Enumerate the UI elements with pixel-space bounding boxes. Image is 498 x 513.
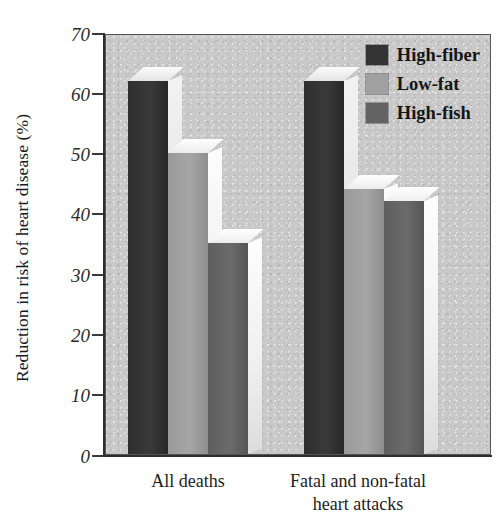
y-tick-mark-30 — [92, 274, 103, 276]
y-tick-label-0: 0 — [46, 447, 90, 466]
bar-front-face — [304, 81, 344, 454]
x-axis-label-heart-attacks: Fatal and non-fatal heart attacks — [258, 470, 458, 513]
y-tick-mark-20 — [92, 334, 103, 336]
y-axis-title: Reduction in risk of heart disease (%) — [12, 18, 42, 478]
y-tick-mark-70 — [92, 33, 103, 35]
bar-all-deaths-high-fish — [208, 243, 248, 454]
y-axis-tick-labels: 70 60 50 40 30 20 10 0 — [46, 0, 90, 513]
y-tick-label-50: 50 — [46, 145, 90, 164]
x-axis-label-all-deaths-text: All deaths — [151, 471, 225, 491]
x-axis-label-heart-attacks-line2: heart attacks — [313, 494, 403, 513]
y-tick-mark-50 — [92, 153, 103, 155]
bar-all-deaths-high-fiber — [128, 81, 168, 454]
y-tick-label-30: 30 — [46, 266, 90, 285]
legend-swatch-high-fiber — [366, 45, 388, 65]
y-tick-mark-40 — [92, 213, 103, 215]
bar-all-deaths-low-fat — [168, 153, 208, 454]
y-tick-mark-60 — [92, 93, 103, 95]
bar-heart-attacks-high-fish — [384, 201, 424, 454]
y-tick-label-40: 40 — [46, 205, 90, 224]
bar-heart-attacks-low-fat — [344, 189, 384, 454]
legend-item-high-fiber[interactable]: High-fiber — [366, 45, 480, 65]
bar-heart-attacks-high-fiber — [304, 81, 344, 454]
bar-front-face — [344, 189, 384, 454]
y-tick-mark-10 — [92, 394, 103, 396]
plot-area: High-fiber Low-fat High-fish — [105, 34, 491, 455]
bar-front-face — [168, 153, 208, 454]
legend-label-low-fat: Low-fat — [397, 75, 460, 94]
legend-item-low-fat[interactable]: Low-fat — [366, 74, 480, 94]
x-axis-label-heart-attacks-line1: Fatal and non-fatal — [290, 471, 426, 491]
y-tick-label-70: 70 — [46, 25, 90, 44]
bar-side-face — [424, 195, 438, 454]
x-axis-line — [103, 455, 492, 457]
y-tick-label-20: 20 — [46, 326, 90, 345]
legend-item-high-fish[interactable]: High-fish — [366, 103, 480, 123]
legend-label-high-fish: High-fish — [397, 104, 471, 123]
y-tick-mark-0 — [92, 455, 103, 457]
bar-chart-figure: Reduction in risk of heart disease (%) 7… — [0, 0, 498, 513]
bar-side-face — [248, 237, 262, 454]
x-axis-label-all-deaths: All deaths — [118, 470, 258, 493]
y-tick-label-60: 60 — [46, 85, 90, 104]
legend-swatch-high-fish — [366, 103, 388, 123]
legend-label-high-fiber: High-fiber — [397, 46, 480, 65]
legend-swatch-low-fat — [366, 74, 388, 94]
chart-legend: High-fiber Low-fat High-fish — [366, 45, 480, 123]
bar-front-face — [128, 81, 168, 454]
y-tick-label-10: 10 — [46, 386, 90, 405]
bar-front-face — [384, 201, 424, 454]
bar-front-face — [208, 243, 248, 454]
